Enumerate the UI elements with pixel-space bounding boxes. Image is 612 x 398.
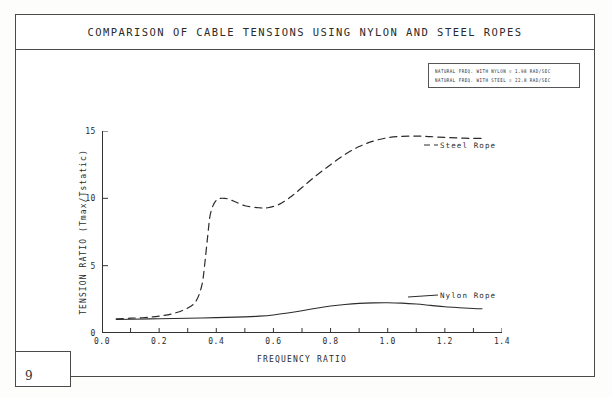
page-title: COMPARISON OF CABLE TENSIONS USING NYLON…: [87, 26, 522, 39]
y-tick-label: 5: [91, 261, 96, 270]
note-line-steel: NATURAL FREQ. WITH STEEL = 22.8 RAD/SEC: [435, 76, 574, 87]
x-tick-label: 1.4: [494, 337, 510, 346]
title-band: COMPARISON OF CABLE TENSIONS USING NYLON…: [16, 15, 594, 50]
x-axis-title: FREQUENCY RATIO: [102, 355, 502, 364]
series-steel-rope-curve: [116, 136, 482, 319]
nylon-rope-label: Nylon Rope: [440, 291, 496, 300]
drawing-frame: COMPARISON OF CABLE TENSIONS USING NYLON…: [15, 14, 595, 377]
page-number: 9: [25, 369, 33, 383]
x-tick-label: 1.0: [380, 337, 396, 346]
x-tick-label: 0.6: [265, 337, 281, 346]
nylon-annotation-leader: [408, 295, 438, 297]
chart-canvas: [102, 131, 502, 333]
x-tick-label: 1.2: [437, 337, 453, 346]
x-tick-label: 0.8: [322, 337, 338, 346]
x-tick-label: 0.4: [208, 337, 224, 346]
x-tick-label: 0.2: [151, 337, 167, 346]
page-number-box: 9: [15, 351, 71, 387]
x-tick-label: 0.0: [94, 337, 110, 346]
scanned-page: COMPARISON OF CABLE TENSIONS USING NYLON…: [0, 0, 612, 398]
y-tick-label: 0: [91, 329, 96, 338]
note-box: NATURAL FREQ. WITH NYLON = 1.98 RAD/SEC …: [428, 63, 580, 88]
steel-rope-label: Steel Rope: [440, 141, 496, 150]
series-nylon-rope-curve: [116, 303, 482, 320]
chart-plot-area: 0.00.20.40.60.81.01.21.4 051015 TENSION …: [102, 131, 502, 333]
y-axis-title: TENSION RATIO (Tmax/Tstatic): [76, 131, 90, 333]
